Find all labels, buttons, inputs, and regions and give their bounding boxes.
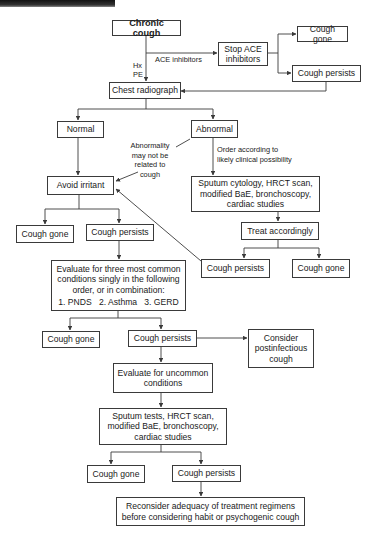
node-chronic-cough: Chronic cough (112, 20, 181, 36)
node-final-cough-gone: Cough gone (87, 465, 145, 483)
node-normal: Normal (57, 121, 104, 138)
label-pe: PE (133, 70, 143, 80)
node-treat-cough-gone: Cough gone (292, 259, 350, 278)
node-ace-cough-gone: Cough gone (297, 26, 348, 42)
node-irritant-cough-gone: Cough gone (16, 225, 74, 243)
node-common-cough-persists: Cough persists (128, 330, 197, 347)
node-uncommon-workup: Sputum tests, HRCT scan, modified BaE, b… (99, 408, 227, 445)
node-abnormal: Abnormal (191, 120, 238, 138)
label-abnormality-note: Abnormality may not be related to cough (124, 141, 176, 179)
node-irritant-cough-persists: Cough persists (86, 224, 154, 241)
node-abnormal-workup: Sputum cytology, HRCT scan, modified BaE… (191, 176, 320, 212)
label-ace-inhibitors: ACE inhibitors (155, 55, 202, 65)
node-treat-accordingly: Treat accordingly (241, 222, 319, 240)
node-final-cough-persists: Cough persists (172, 465, 241, 482)
node-avoid-irritant: Avoid irritant (47, 176, 114, 195)
node-treat-cough-persists: Cough persists (201, 259, 270, 278)
label-order-note: Order according to likely clinical possi… (217, 145, 292, 164)
node-ace-cough-persists: Cough persists (292, 65, 361, 82)
node-stop-ace-inhibitors: Stop ACE inhibitors (218, 42, 268, 66)
node-evaluate-common-conditions: Evaluate for three most common condition… (51, 260, 186, 311)
node-common-cough-gone: Cough gone (42, 331, 100, 348)
node-consider-postinfectious: Consider postinfectious cough (248, 329, 314, 368)
node-reconsider-treatment: Reconsider adequacy of treatment regimen… (116, 497, 305, 526)
node-evaluate-uncommon-conditions: Evaluate for uncommon conditions (113, 363, 213, 393)
node-chest-radiograph: Chest radiograph (109, 82, 181, 99)
